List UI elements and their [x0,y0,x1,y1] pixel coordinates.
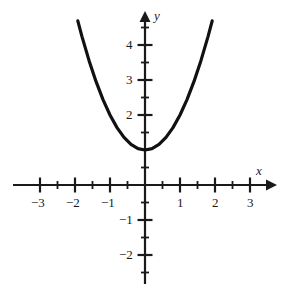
y-axis-title: y [154,9,160,22]
x-axis-title: x [256,164,262,177]
y-axis-arrow-icon [140,11,151,22]
x-tick-label-3: 3 [247,196,254,209]
y-tick-label-neg2: −2 [119,248,133,261]
y-tick-label-3: 3 [126,73,133,86]
x-tick-label-1: 1 [177,196,184,209]
x-tick-label-neg2: −2 [66,196,80,209]
graph-figure: −3 −2 −1 1 2 3 4 3 2 −1 −2 x y [0,0,292,292]
y-tick-label-neg1: −1 [119,213,133,226]
y-tick-label-2: 2 [126,108,133,121]
y-tick-label-4: 4 [126,38,133,51]
x-axis-arrow-icon [266,180,277,191]
x-tick-label-2: 2 [212,196,219,209]
cartesian-plot [0,0,292,292]
x-tick-label-neg3: −3 [31,196,45,209]
x-tick-label-neg1: −1 [101,196,115,209]
